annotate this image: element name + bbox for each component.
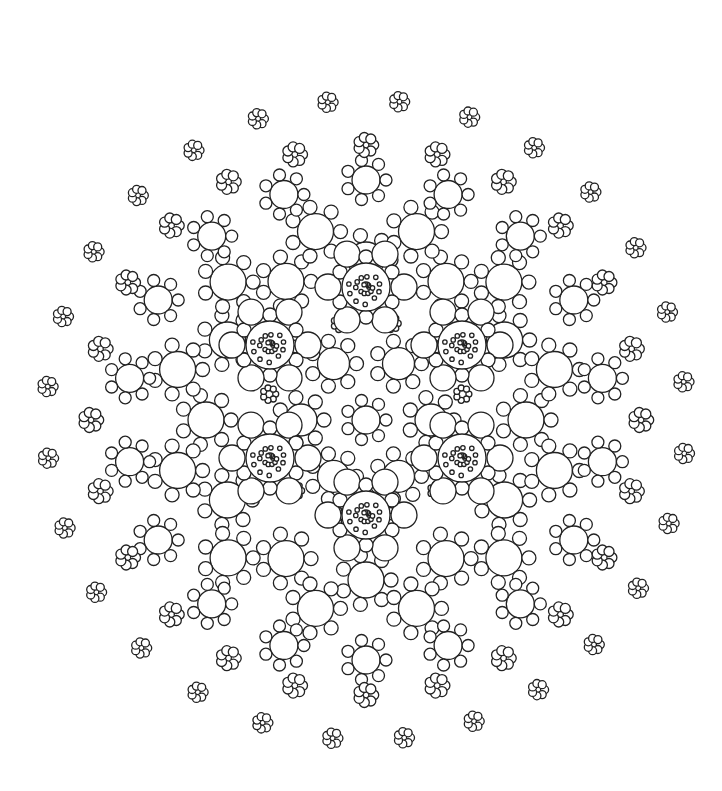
- small-rosette: [184, 140, 204, 160]
- small-rosette: [160, 213, 185, 238]
- small-rosette: [581, 182, 601, 202]
- small-rosette: [54, 306, 74, 326]
- small-rosette: [675, 443, 695, 463]
- small-rosette: [629, 408, 654, 433]
- small-rosette: [620, 336, 645, 361]
- small-rosette: [658, 302, 678, 322]
- ring-flower: [550, 275, 600, 326]
- ring-flower: [342, 635, 392, 686]
- small-rosette: [248, 109, 268, 129]
- small-rosette: [629, 578, 649, 598]
- small-rosette: [38, 376, 58, 396]
- small-rosette: [549, 213, 574, 238]
- ring-flower: [260, 169, 310, 220]
- small-rosette: [492, 169, 517, 194]
- small-rosette: [132, 638, 152, 658]
- small-rosette: [592, 545, 617, 570]
- ring-flower: [474, 527, 536, 590]
- ring-flower: [188, 578, 238, 629]
- ring-flower: [148, 439, 210, 502]
- small-rosette: [674, 372, 694, 392]
- small-rosette: [128, 185, 148, 205]
- small-rosette: [283, 142, 308, 167]
- small-rosette: [217, 169, 242, 194]
- small-rosette: [39, 448, 59, 468]
- small-rosette: [88, 336, 113, 361]
- small-rosette: [454, 385, 472, 403]
- small-rosette: [323, 728, 343, 748]
- small-rosette: [79, 408, 104, 433]
- large-flower: [219, 299, 321, 391]
- small-rosette: [460, 107, 480, 127]
- ring-flower: [578, 353, 628, 404]
- small-rosette: [318, 92, 338, 112]
- ring-flower: [417, 527, 479, 590]
- ring-flower: [525, 338, 587, 401]
- ring-flower: [525, 439, 587, 502]
- small-rosette: [464, 711, 484, 731]
- small-rosette: [87, 582, 107, 602]
- ring-flower: [148, 338, 210, 401]
- small-rosette: [525, 138, 545, 158]
- small-rosette: [116, 545, 141, 570]
- small-rosette: [261, 385, 279, 403]
- ring-flower: [550, 515, 600, 566]
- small-rosette: [217, 646, 242, 671]
- small-rosette: [116, 270, 141, 295]
- small-rosette: [188, 682, 208, 702]
- ring-flower: [342, 395, 392, 446]
- small-rosette: [425, 673, 450, 698]
- small-rosette: [160, 602, 185, 627]
- small-rosette: [620, 479, 645, 504]
- small-rosette: [55, 518, 75, 538]
- small-rosette: [492, 646, 517, 671]
- small-rosette: [84, 242, 104, 262]
- ring-flower: [578, 436, 628, 487]
- ring-flower: [106, 353, 156, 404]
- small-rosette: [529, 680, 549, 700]
- small-rosette: [354, 133, 379, 158]
- small-rosette: [549, 602, 574, 627]
- small-rosette: [390, 92, 410, 112]
- mandala-pattern: [0, 0, 722, 791]
- small-rosette: [253, 713, 273, 733]
- small-rosette: [592, 270, 617, 295]
- small-rosette: [425, 142, 450, 167]
- ring-flower: [134, 515, 184, 566]
- ring-flower: [134, 275, 184, 326]
- small-rosette: [584, 634, 604, 654]
- ring-flower: [106, 436, 156, 487]
- small-rosette: [395, 728, 415, 748]
- small-rosette: [88, 479, 113, 504]
- small-rosette: [354, 683, 379, 708]
- small-rosette: [283, 673, 308, 698]
- ring-flower: [177, 389, 239, 452]
- ring-flower: [188, 211, 238, 262]
- small-rosette: [626, 238, 646, 258]
- ring-flower: [260, 620, 310, 671]
- small-rosette: [659, 513, 679, 533]
- ring-flower: [342, 155, 392, 206]
